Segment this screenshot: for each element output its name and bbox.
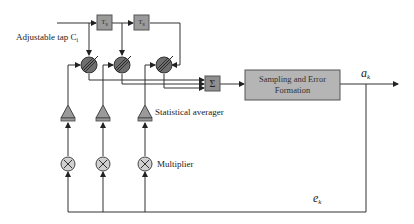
output-label: ak bbox=[361, 67, 370, 81]
multiplier-1 bbox=[61, 157, 75, 171]
sampling-label-line1: Sampling and Error bbox=[245, 74, 340, 85]
multiplier-2 bbox=[96, 157, 110, 171]
multiplier-label: Multiplier bbox=[157, 160, 194, 169]
averager-3 bbox=[138, 105, 152, 121]
sampling-label-line2: Formation bbox=[245, 85, 340, 96]
multiplier-3 bbox=[138, 157, 152, 171]
tap-weight-3 bbox=[156, 56, 173, 73]
adjustable-tap-label: Adjustable tap Ci bbox=[16, 33, 78, 43]
tap-weight-1 bbox=[81, 56, 98, 73]
sampling-label: Sampling and Error Formation bbox=[245, 74, 340, 95]
error-label: ek bbox=[313, 192, 321, 206]
statistical-averager-label: Statistical averager bbox=[155, 108, 224, 117]
averager-2 bbox=[96, 105, 110, 121]
summer-label: Σ bbox=[205, 78, 220, 91]
tap-weight-2 bbox=[114, 56, 131, 73]
delay-2-label: Ts bbox=[134, 18, 149, 29]
delay-1-label: Ts bbox=[97, 18, 112, 29]
averager-1 bbox=[61, 105, 75, 121]
